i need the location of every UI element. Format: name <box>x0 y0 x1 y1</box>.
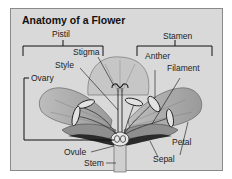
label-sepal: Sepal <box>153 155 175 164</box>
ovule-leader <box>91 146 114 152</box>
diagram-title: Anatomy of a Flower <box>22 14 125 26</box>
ovary <box>111 132 129 146</box>
label-ovary: Ovary <box>31 74 54 83</box>
label-anther: Anther <box>145 52 170 61</box>
label-petal: Petal <box>172 138 191 147</box>
flower-illustration <box>0 0 232 179</box>
stem <box>114 144 126 172</box>
label-ovule: Ovule <box>64 148 86 157</box>
label-stigma: Stigma <box>73 48 99 57</box>
label-filament: Filament <box>167 64 200 73</box>
label-stem: Stem <box>84 159 104 168</box>
label-pistil: Pistil <box>52 30 70 39</box>
label-stamen: Stamen <box>163 32 192 41</box>
label-style: Style <box>55 61 74 70</box>
